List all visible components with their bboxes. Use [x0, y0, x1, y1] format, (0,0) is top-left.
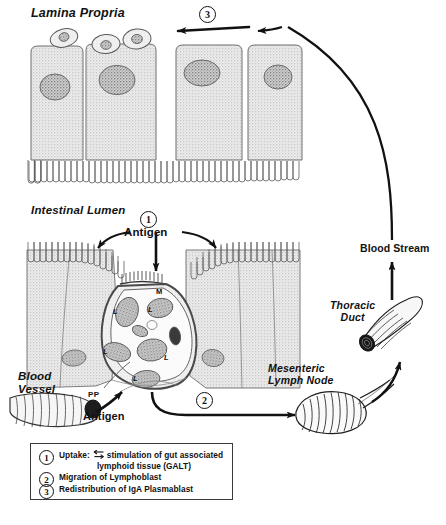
lymphocyte-label: L — [113, 307, 118, 316]
legend-item-1: 1 Uptake:stimulation of gut associated l… — [39, 450, 223, 472]
legend-item-3: 3 Redistribution of IgA Plasmablast — [39, 484, 193, 499]
lower-epithelium-group — [27, 242, 300, 392]
lymphocyte-label: L — [164, 353, 169, 362]
mesenteric-lymph-node-label: MesentericLymph Node — [268, 363, 334, 387]
intestinal-lumen-label: Intestinal Lumen — [31, 204, 126, 217]
lamina-propria-label: Lamina Propria — [31, 6, 125, 20]
legend-item-3-text: Redistribution of IgA Plasmablast — [59, 484, 193, 495]
step-2-marker: 2 — [196, 392, 213, 409]
peyers-patch-label: PP — [88, 391, 99, 400]
blood-stream-label: Blood Stream — [360, 243, 429, 255]
thoracic-duct-label: ThoracicDuct — [330, 300, 375, 324]
legend-item-1-text: Uptake:stimulation of gut associated lym… — [59, 450, 223, 472]
m-cell-microvilli — [120, 271, 165, 284]
legend-item-1-number: 1 — [39, 450, 54, 465]
legend-item-1-text-before: Uptake: — [59, 450, 90, 460]
upper-epithelium-group — [28, 26, 302, 183]
legend-item-3-number: 3 — [39, 484, 54, 499]
m-cell-label: M — [156, 288, 162, 296]
antigen-vessel-label: Antigen — [83, 410, 125, 422]
diagram-canvas: Lamina Propria Intestinal Lumen BloodVes… — [0, 0, 446, 525]
step-3-marker: 3 — [199, 6, 216, 23]
blood-vessel-label: BloodVessel — [18, 370, 55, 396]
legend-box: 1 Uptake:stimulation of gut associated l… — [30, 443, 233, 500]
step-1-marker: 1 — [140, 211, 157, 228]
legend-item-1-text-line2: lymphoid tissue (GALT) — [59, 461, 191, 472]
upper-microvilli — [28, 160, 41, 183]
lymphocyte-label: L — [133, 374, 138, 383]
step2-arrow — [152, 392, 295, 415]
antigen-lumen-label: Antigen — [124, 226, 168, 239]
lymphocyte-label: L — [103, 347, 108, 356]
lymphocyte-label: L — [148, 305, 153, 314]
upper-microvilli-row — [29, 161, 299, 183]
legend-item-2-text: Migration of Lymphoblast — [59, 472, 161, 483]
legend-item-1-text-after: stimulation of gut associated — [107, 450, 223, 460]
bidirectional-uptake-arrow-icon — [92, 450, 105, 459]
